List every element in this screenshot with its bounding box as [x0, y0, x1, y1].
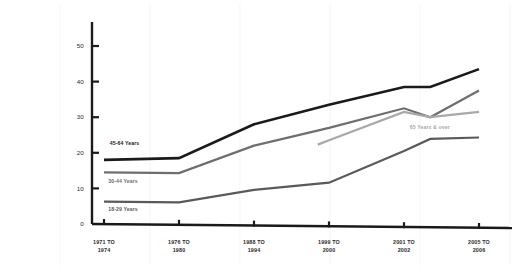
svg-text:2001 TO: 2001 TO	[393, 239, 415, 245]
svg-text:1999 TO: 1999 TO	[318, 239, 340, 245]
svg-text:1974: 1974	[98, 247, 111, 253]
y-tick-label-10: 10	[77, 185, 85, 192]
y-tick-label-0: 0	[80, 220, 84, 227]
line-chart: 01020304050 1971 TO19741976 TO19801988 T…	[0, 0, 524, 271]
svg-text:2002: 2002	[398, 247, 411, 253]
svg-text:1988 TO: 1988 TO	[243, 239, 265, 245]
y-tick-label-50: 50	[77, 42, 85, 49]
series-label-18-29-years: 18-29 Years	[108, 206, 138, 212]
svg-text:1980: 1980	[173, 247, 186, 253]
svg-text:2000: 2000	[323, 247, 336, 253]
y-tick-label-20: 20	[77, 149, 85, 156]
series-label-45-64-years: 45-64 Years	[110, 140, 140, 146]
chart-container: 01020304050 1971 TO19741976 TO19801988 T…	[0, 0, 524, 271]
chart-background	[0, 0, 524, 271]
svg-text:1976 TO: 1976 TO	[168, 239, 190, 245]
svg-text:2005 TO: 2005 TO	[468, 239, 490, 245]
svg-text:2006: 2006	[473, 247, 486, 253]
series-label-65-years-and-over: 65 Years & over	[410, 124, 450, 130]
y-tick-label-40: 40	[77, 78, 85, 85]
series-label-30-44-years: 30-44 Years	[108, 178, 138, 184]
y-tick-label-30: 30	[77, 113, 85, 120]
svg-text:1971 TO: 1971 TO	[93, 239, 115, 245]
svg-text:1994: 1994	[248, 247, 261, 253]
